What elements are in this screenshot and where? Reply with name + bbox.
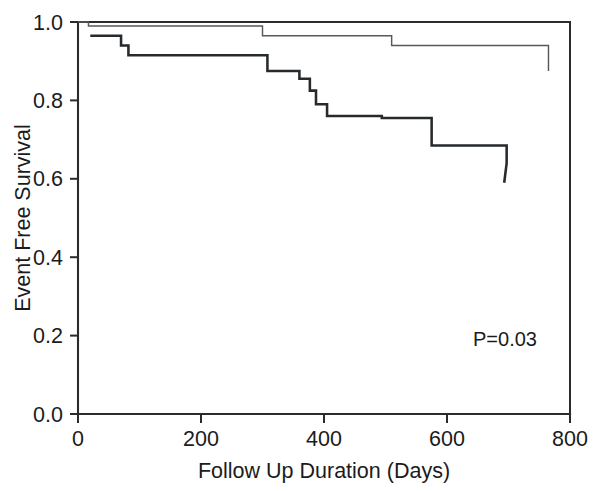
y-tick-label: 0.6: [33, 167, 63, 191]
x-tick-label: 200: [183, 427, 219, 451]
figure-background: [0, 0, 602, 491]
y-axis-title: Event Free Survival: [11, 124, 35, 312]
chart-canvas: 0.00.20.40.60.81.0 0200400600800 Event F…: [0, 0, 602, 491]
y-tick-label: 0.0: [33, 403, 63, 427]
p-value-annotation: P=0.03: [473, 328, 537, 350]
y-tick-label: 0.8: [33, 89, 63, 113]
x-tick-label: 400: [306, 427, 342, 451]
x-axis-title: Follow Up Duration (Days): [198, 459, 450, 483]
x-tick-label: 0: [72, 427, 84, 451]
y-tick-label: 0.2: [33, 324, 63, 348]
y-tick-label: 1.0: [33, 11, 63, 35]
kaplan-meier-figure: 0.00.20.40.60.81.0 0200400600800 Event F…: [0, 0, 602, 491]
x-tick-label: 600: [429, 427, 465, 451]
x-tick-label: 800: [552, 427, 588, 451]
y-tick-label: 0.4: [33, 246, 63, 270]
